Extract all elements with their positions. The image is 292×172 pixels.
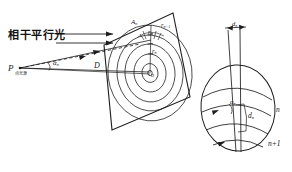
detail-angle-label: αn bbox=[230, 99, 235, 106]
distance-baseline bbox=[20, 68, 150, 74]
ring-label-r-n1: rn+1 bbox=[161, 22, 170, 29]
order-label-n: n bbox=[276, 106, 280, 114]
source-rays bbox=[20, 40, 151, 72]
distance-label: D bbox=[94, 62, 100, 70]
point-source-marker bbox=[19, 67, 22, 70]
order-label-n1: n+1 bbox=[268, 140, 281, 148]
ring-center-label: o bbox=[151, 72, 154, 78]
point-source-caption: 点光源 bbox=[15, 72, 26, 76]
ring-label-A-n: An bbox=[131, 19, 137, 26]
spacing-top-label: dn bbox=[232, 21, 237, 28]
ring-label-r-n-inner: rn bbox=[152, 48, 157, 55]
coherent-light-label: 相干平行光 bbox=[8, 30, 66, 41]
angle-alpha-label: αn bbox=[53, 60, 59, 67]
gap-label-dn: dn bbox=[248, 112, 254, 121]
optics-interference-diagram bbox=[0, 0, 292, 172]
point-source-symbol: P bbox=[8, 64, 14, 73]
ring-spacing-detail bbox=[198, 25, 278, 154]
ring-label-r-n: rn bbox=[148, 29, 153, 36]
